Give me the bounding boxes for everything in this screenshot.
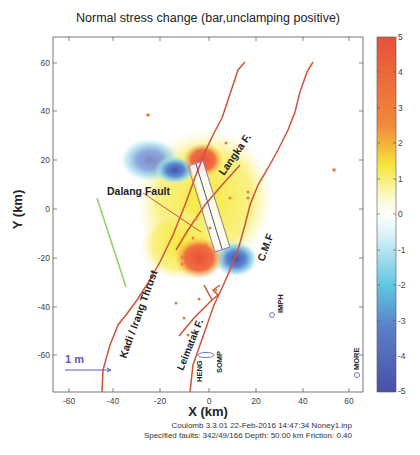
plot-canvas: -60 -40 -20 0 20 40 60 60 40 20 0 -20 -4…	[0, 0, 420, 455]
station-imph-marker	[270, 313, 275, 318]
green-reference-line	[97, 198, 126, 287]
svg-text:4: 4	[398, 67, 403, 77]
station-imph-label: IMPH	[276, 294, 285, 313]
station-more-label: MORE	[352, 348, 361, 371]
colorbar-tick-labels: 5 4 3 2 1 0 -1 -2 -3 -4 -5	[398, 32, 406, 396]
footer-line-1: Coulomb 3.3.01 22-Feb-2016 14:47:34 None…	[171, 421, 352, 430]
y-tick-labels: 60 40 20 0 -20 -40 -60	[38, 58, 51, 360]
svg-text:-1: -1	[398, 245, 406, 255]
svg-text:5: 5	[398, 32, 403, 42]
svg-text:3: 3	[398, 103, 403, 113]
station-more-marker	[355, 373, 360, 378]
svg-text:-4: -4	[398, 351, 406, 361]
svg-text:-40: -40	[38, 302, 51, 312]
svg-text:60: 60	[41, 58, 51, 68]
svg-text:0: 0	[398, 209, 403, 219]
scale-label: 1 m	[65, 353, 84, 365]
svg-text:-3: -3	[398, 316, 406, 326]
svg-text:2: 2	[398, 138, 403, 148]
colorbar	[377, 37, 396, 392]
stress-field	[116, 109, 293, 291]
station-heng-somp-marker	[198, 353, 214, 358]
leimatak-splay-trace	[204, 285, 212, 300]
svg-text:20: 20	[41, 155, 51, 165]
y-axis-label: Y (km)	[10, 190, 25, 230]
svg-text:1: 1	[398, 174, 403, 184]
kadi-irang-thrust-label: Kadi / Irang Thrust	[117, 268, 160, 360]
x-axis-label: X (km)	[53, 404, 363, 419]
footer-line-2: Specified faults: 342/49/166 Depth: 50.0…	[144, 431, 352, 440]
station-somp-label: SOMP	[215, 351, 224, 373]
station-heng-label: HENG	[195, 360, 204, 382]
svg-text:-2: -2	[398, 280, 406, 290]
svg-text:0: 0	[45, 204, 50, 214]
svg-text:-20: -20	[38, 253, 51, 263]
dalang-fault-label: Dalang Fault	[107, 185, 171, 197]
svg-text:40: 40	[41, 106, 51, 116]
svg-text:-60: -60	[38, 350, 51, 360]
svg-text:-5: -5	[398, 386, 406, 396]
